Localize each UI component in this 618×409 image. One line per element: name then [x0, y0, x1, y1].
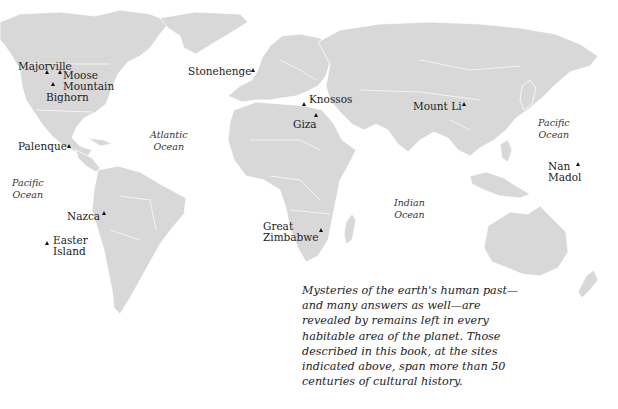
greenland-landmass: [160, 12, 248, 54]
site-label-knossos: Knossos: [309, 94, 352, 105]
triangle-marker-icon: [251, 68, 255, 72]
triangle-marker-icon: [314, 113, 318, 117]
caption-line: revealed by remains left in every: [302, 313, 552, 328]
ocean-label-pacific-ocean-west-: PacificOcean: [538, 117, 570, 141]
site-label-easter-island: EasterIsland: [53, 235, 88, 257]
triangle-marker-icon: [45, 241, 49, 245]
caption-line: centuries of cultural history.: [302, 374, 552, 389]
site-label-nan-madol: NanMadol: [548, 161, 581, 183]
triangle-marker-icon: [51, 82, 55, 86]
caption-line: and many answers as well—are: [302, 298, 552, 313]
site-label-moose-mountain: MooseMountain: [63, 70, 114, 92]
new-zealand-landmass: [578, 270, 598, 298]
triangle-marker-icon: [102, 211, 106, 215]
caribbean-islands: [88, 138, 112, 146]
southeast-asia-islands: [470, 172, 530, 198]
triangle-marker-icon: [302, 102, 306, 106]
site-label-mount-li: Mount Li: [413, 101, 462, 112]
caption-line: described in this book, at the sites: [302, 344, 552, 359]
madagascar-landmass: [344, 214, 356, 244]
site-label-great-zimbabwe: GreatZimbabwe: [263, 221, 319, 243]
ocean-label-indian-ocean: IndianOcean: [394, 197, 425, 221]
site-label-palenque: Palenque: [18, 141, 67, 152]
map-caption: Mysteries of the earth's human past— and…: [302, 283, 552, 389]
triangle-marker-icon: [67, 144, 71, 148]
australia-landmass: [484, 206, 568, 276]
triangle-marker-icon: [319, 228, 323, 232]
caption-line: indicated above, span more than 50: [302, 359, 552, 374]
triangle-marker-icon: [462, 102, 466, 106]
philippines-landmass: [500, 140, 512, 162]
site-label-nazca: Nazca: [67, 211, 100, 222]
site-label-bighorn: Bighorn: [46, 92, 89, 103]
caption-line: habitable area of the planet. Those: [302, 329, 552, 344]
site-label-stonehenge: Stonehenge: [188, 66, 251, 77]
ocean-label-pacific-ocean-east-: PacificOcean: [12, 177, 44, 201]
ocean-label-atlantic-ocean: AtlanticOcean: [150, 129, 188, 153]
caption-line: Mysteries of the earth's human past—: [302, 283, 552, 298]
site-label-giza: Giza: [293, 119, 317, 130]
